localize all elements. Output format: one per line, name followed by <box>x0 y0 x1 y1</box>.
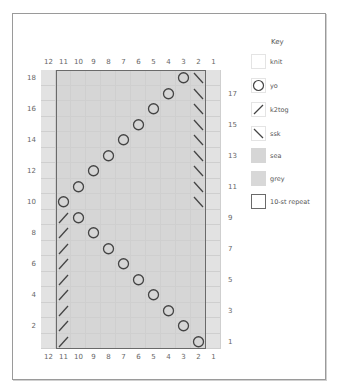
key-item-knit: knit <box>251 54 327 70</box>
chart-cell <box>71 148 86 164</box>
chart-cell <box>116 225 131 241</box>
chart-cell <box>176 117 191 133</box>
key-item-grey: grey <box>251 171 327 187</box>
column-label: 12 <box>41 353 56 361</box>
chart-cell <box>101 303 116 319</box>
chart-cell <box>206 148 221 164</box>
row-label: 3 <box>228 307 246 315</box>
knitting-chart-grid <box>41 70 221 349</box>
chart-cell <box>116 101 131 117</box>
chart-cell <box>146 117 161 133</box>
chart-cell <box>176 194 191 210</box>
column-label: 8 <box>101 353 116 361</box>
column-label: 11 <box>56 353 71 361</box>
key-item-ssk: ssk <box>251 126 327 142</box>
chart-cell <box>41 70 56 86</box>
key-item-yo: yo <box>251 78 327 94</box>
chart-cell <box>86 272 101 288</box>
chart-cell <box>176 241 191 257</box>
chart-cell <box>56 101 71 117</box>
chart-cell <box>146 256 161 272</box>
chart-cell <box>161 334 176 350</box>
column-label: 9 <box>86 58 101 66</box>
chart-cell <box>131 70 146 86</box>
chart-cell <box>206 334 221 350</box>
chart-cell <box>146 86 161 102</box>
row-label: 12 <box>18 167 36 175</box>
chart-cell <box>86 117 101 133</box>
chart-cell <box>41 101 56 117</box>
chart-cell <box>71 132 86 148</box>
sea-color-swatch-icon <box>251 148 266 163</box>
yo-circle-icon <box>131 117 146 133</box>
yo-circle-icon <box>86 225 101 241</box>
yo-circle-icon <box>161 86 176 102</box>
key-label: sea <box>270 152 281 160</box>
column-label: 9 <box>86 353 101 361</box>
chart-cell <box>206 256 221 272</box>
key-label: k2tog <box>270 106 289 114</box>
yo-circle-icon <box>176 70 191 86</box>
chart-cell <box>101 117 116 133</box>
chart-cell <box>146 70 161 86</box>
chart-cell <box>131 256 146 272</box>
chart-cell <box>86 334 101 350</box>
chart-cell <box>191 225 206 241</box>
chart-cell <box>101 101 116 117</box>
chart-cell <box>101 86 116 102</box>
row-label: 11 <box>228 183 246 191</box>
row-label: 14 <box>18 136 36 144</box>
yo-circle-icon <box>116 132 131 148</box>
yo-circle-icon <box>176 318 191 334</box>
chart-cell <box>131 163 146 179</box>
chart-cell <box>86 132 101 148</box>
row-label: 6 <box>18 260 36 268</box>
k2tog-slash-icon <box>56 272 71 288</box>
chart-cell <box>161 318 176 334</box>
key-label: knit <box>270 58 282 66</box>
chart-cell <box>191 287 206 303</box>
chart-cell <box>146 334 161 350</box>
chart-cell <box>131 132 146 148</box>
chart-cell <box>146 194 161 210</box>
ssk-backslash-icon <box>191 148 206 164</box>
chart-cell <box>116 163 131 179</box>
chart-cell <box>206 318 221 334</box>
ssk-backslash-icon <box>191 194 206 210</box>
chart-cell <box>101 179 116 195</box>
chart-cell <box>161 163 176 179</box>
yo-circle-icon <box>71 210 86 226</box>
chart-cell <box>71 225 86 241</box>
chart-cell <box>191 303 206 319</box>
chart-cell <box>86 241 101 257</box>
k2tog-slash-icon <box>56 210 71 226</box>
chart-cell <box>176 179 191 195</box>
chart-cell <box>161 148 176 164</box>
column-label: 11 <box>56 58 71 66</box>
chart-cell <box>191 210 206 226</box>
chart-cell <box>71 303 86 319</box>
chart-cell <box>206 70 221 86</box>
chart-cell <box>176 86 191 102</box>
chart-cell <box>116 86 131 102</box>
chart-cell <box>161 70 176 86</box>
chart-cell <box>41 179 56 195</box>
chart-cell <box>161 272 176 288</box>
ssk-backslash-icon <box>251 126 266 141</box>
key-label: ssk <box>270 130 281 138</box>
chart-cell <box>161 287 176 303</box>
k2tog-slash-icon <box>56 318 71 334</box>
k2tog-slash-icon <box>56 303 71 319</box>
chart-cell <box>161 132 176 148</box>
yo-circle-icon <box>71 179 86 195</box>
row-label: 1 <box>228 338 246 346</box>
chart-cell <box>131 179 146 195</box>
chart-cell <box>101 194 116 210</box>
key-label: 10-st repeat <box>270 198 310 206</box>
column-label: 2 <box>191 58 206 66</box>
k2tog-slash-icon <box>56 225 71 241</box>
chart-cell <box>161 101 176 117</box>
ssk-backslash-icon <box>191 70 206 86</box>
chart-cell <box>41 148 56 164</box>
chart-cell <box>86 303 101 319</box>
